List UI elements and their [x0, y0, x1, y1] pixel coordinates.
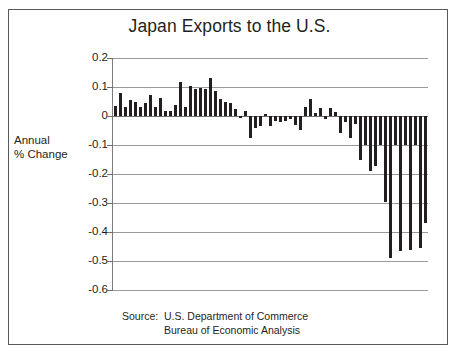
- bar: [214, 91, 217, 116]
- bar: [169, 111, 172, 116]
- bar: [259, 116, 262, 126]
- bar: [404, 116, 407, 145]
- bar: [229, 103, 232, 116]
- bar: [269, 116, 272, 126]
- bar-series: [113, 58, 428, 290]
- y-axis-tick-labels: 0.20.10-0.1-0.2-0.3-0.4-0.5-0.6: [62, 58, 108, 290]
- bar: [289, 116, 292, 119]
- bar: [254, 116, 257, 128]
- gridline: [113, 290, 428, 291]
- y-axis-tick: [107, 290, 113, 291]
- plot-area: [113, 58, 428, 290]
- bar: [304, 107, 307, 116]
- y-axis-tick-label: 0: [64, 109, 108, 121]
- bar: [364, 116, 367, 145]
- bar: [424, 116, 427, 223]
- bar: [349, 116, 352, 138]
- bar: [219, 99, 222, 116]
- bar: [189, 86, 192, 116]
- bar: [144, 103, 147, 116]
- source-line-2: Bureau of Economic Analysis: [122, 323, 308, 337]
- bar: [374, 116, 377, 166]
- source-label: Source:: [122, 309, 164, 323]
- bar: [394, 116, 397, 145]
- bar: [274, 116, 277, 121]
- y-axis-tick-label: 0.1: [64, 80, 108, 92]
- bar: [399, 116, 402, 251]
- bar: [114, 106, 117, 116]
- source-note: Source:U.S. Department of Commerce Burea…: [122, 309, 308, 337]
- bar: [134, 102, 137, 116]
- bar: [419, 116, 422, 248]
- bar: [194, 89, 197, 116]
- y-axis-tick-label: -0.4: [64, 225, 108, 237]
- y-axis-tick-label: -0.6: [64, 283, 108, 295]
- bar: [309, 99, 312, 116]
- y-axis-tick-label: -0.1: [64, 138, 108, 150]
- bar: [124, 107, 127, 116]
- bar: [164, 111, 167, 116]
- bar: [299, 116, 302, 130]
- bar: [119, 93, 122, 116]
- bar: [339, 116, 342, 133]
- bar: [264, 114, 267, 116]
- bar: [409, 116, 412, 250]
- bar: [384, 116, 387, 202]
- bar: [244, 111, 247, 116]
- y-axis-tick-label: -0.3: [64, 196, 108, 208]
- bar: [129, 100, 132, 116]
- bar: [234, 109, 237, 116]
- bar: [174, 105, 177, 116]
- bar: [314, 113, 317, 116]
- bar: [249, 116, 252, 138]
- chart-title: Japan Exports to the U.S.: [0, 16, 459, 37]
- bar: [369, 116, 372, 171]
- y-axis-tick-label: 0.2: [64, 51, 108, 63]
- y-axis-tick-label: -0.2: [64, 167, 108, 179]
- source-line-1: U.S. Department of Commerce: [164, 310, 308, 322]
- bar: [319, 108, 322, 116]
- bar: [154, 107, 157, 116]
- bar: [179, 82, 182, 116]
- bar: [414, 116, 417, 145]
- bar: [204, 89, 207, 116]
- y-axis-tick-label: -0.5: [64, 254, 108, 266]
- bar: [279, 116, 282, 122]
- chart-figure: Japan Exports to the U.S. Annual % Chang…: [0, 0, 459, 355]
- bar: [149, 95, 152, 116]
- bar: [389, 116, 392, 258]
- bar: [379, 116, 382, 145]
- bar: [159, 98, 162, 116]
- bar: [184, 107, 187, 116]
- bar: [354, 116, 357, 124]
- bar: [209, 78, 212, 116]
- bar: [344, 116, 347, 122]
- bar: [239, 116, 242, 118]
- bar: [224, 102, 227, 116]
- bar: [139, 107, 142, 116]
- bar: [329, 108, 332, 116]
- bar: [284, 116, 287, 121]
- bar: [359, 116, 362, 160]
- bar: [294, 116, 297, 125]
- bar: [199, 88, 202, 116]
- bar: [324, 116, 327, 119]
- bar: [334, 112, 337, 116]
